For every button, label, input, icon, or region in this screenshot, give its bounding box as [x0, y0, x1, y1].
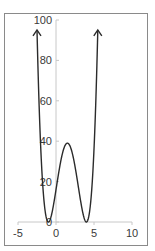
- chart-plot: -50510020406080100: [0, 0, 155, 251]
- tick-labels: -50510020406080100: [13, 14, 138, 239]
- y-tick-label: 40: [40, 135, 52, 147]
- y-tick-label: 80: [40, 54, 52, 66]
- x-tick-label: 0: [53, 227, 59, 239]
- x-tick-label: -5: [13, 227, 23, 239]
- y-tick-label: 100: [34, 14, 52, 26]
- x-tick-label: 5: [91, 227, 97, 239]
- axes: [18, 20, 132, 225]
- x-tick-label: 10: [126, 227, 138, 239]
- y-tick-label: 60: [40, 95, 52, 107]
